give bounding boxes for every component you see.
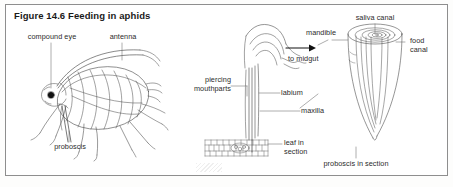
compound-eye — [48, 92, 54, 98]
label-compound-eye: compound eye — [16, 33, 88, 42]
label-proboscis-in-section: proboscis in section — [308, 160, 404, 169]
page-artifact — [196, 163, 222, 172]
label-saliva-canal: saliva canal — [347, 14, 403, 23]
label-food-canal-line2: canal — [410, 46, 428, 55]
proboscis-section-drawing — [348, 24, 402, 140]
leg-front-left — [40, 104, 60, 133]
label-labium: labium — [281, 89, 303, 98]
proboscis-stylet — [62, 106, 68, 142]
label-leaf-in-section-line2: section — [284, 148, 307, 157]
leaf-section-drawing — [205, 140, 268, 156]
to-midgut-arrow — [286, 45, 316, 52]
leg-hind-left — [120, 126, 132, 150]
antenna-lower — [58, 55, 143, 88]
label-to-midgut: to midgut — [288, 55, 318, 64]
label-maxilla: maxilla — [301, 107, 324, 116]
label-proboscis: proboscis — [47, 143, 93, 152]
figure-container: Figure 14.6 Feeding in aphids — [0, 0, 453, 187]
label-antenna: antenna — [98, 33, 148, 42]
label-piercing-mouthparts-line2: mouthparts — [175, 85, 231, 94]
label-mandible: mandible — [306, 29, 336, 38]
